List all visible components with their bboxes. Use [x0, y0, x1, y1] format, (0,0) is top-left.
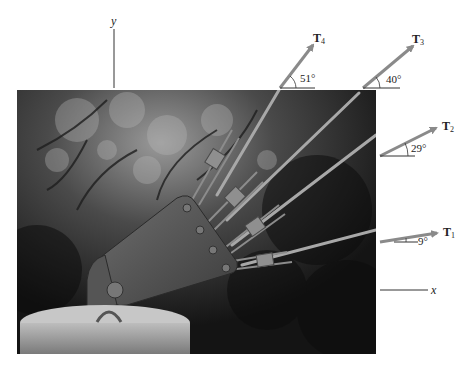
force-t3-subscript: 3: [420, 38, 424, 47]
force-t3-angle: 40°: [386, 74, 401, 85]
force-t1-arrow: [380, 233, 437, 242]
force-t2-arrow: [380, 128, 436, 156]
x-axis-label: x: [431, 284, 436, 296]
force-t1-subscript: 1: [451, 231, 455, 240]
force-t2-angle: 29°: [411, 143, 426, 154]
force-t2-label: T2: [442, 120, 454, 134]
force-t2-subscript: 2: [450, 125, 454, 134]
force-t2-name: T: [442, 119, 450, 133]
force-t1-name: T: [443, 225, 451, 239]
force-t3-label: T3: [412, 33, 424, 47]
force-t4-label: T4: [313, 32, 325, 46]
force-t4-name: T: [313, 31, 321, 45]
anchor-photo: [17, 90, 376, 354]
photo-illustration: [17, 90, 376, 354]
force-t1-angle: 9°: [418, 236, 428, 247]
force-t4-subscript: 4: [321, 37, 325, 46]
force-t4-angle: 51°: [300, 73, 315, 84]
force-t3-name: T: [412, 32, 420, 46]
statics-figure: y x T4 51° T3 40° T2 29° T1 9°: [0, 0, 473, 365]
y-axis-label: y: [111, 15, 116, 27]
force-t1-label: T1: [443, 226, 455, 240]
